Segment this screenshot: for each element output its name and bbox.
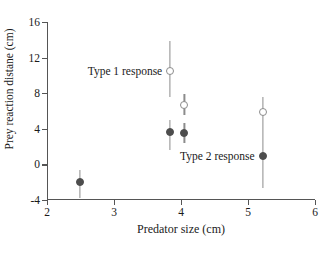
x-tick-label: 2 [44,206,50,218]
chart-annotation: Type 1 response [88,65,163,77]
data-point-type-2 [76,178,84,186]
y-tick-label: 0 [34,158,40,170]
x-tick-mark [181,200,182,205]
data-point-type-2 [166,128,174,136]
x-tick-mark [47,200,48,205]
y-tick-label: 12 [29,52,41,64]
x-tick-mark [248,200,249,205]
y-tick-mark [42,164,47,165]
y-tick-label: 4 [34,123,40,135]
data-point-type-2 [259,152,267,160]
y-tick-mark [42,93,47,94]
data-point-type-1 [259,108,267,116]
x-tick-label: 4 [178,206,184,218]
y-tick-mark [42,22,47,23]
y-axis-line [47,22,48,200]
y-tick-label: 16 [29,16,41,28]
data-point-type-1 [180,101,188,109]
y-tick-mark [42,58,47,59]
x-tick-mark [315,200,316,205]
data-point-type-1 [166,67,174,75]
y-axis-title-wrap: Prey reaction distane (cm) [11,0,12,178]
data-point-type-2 [180,129,188,137]
x-tick-label: 6 [312,206,318,218]
y-tick-mark [42,129,47,130]
x-tick-mark [114,200,115,205]
y-tick-label: -4 [30,194,40,206]
chart-annotation: Type 2 response [180,150,255,162]
y-axis-title: Prey reaction distane (cm) [3,28,15,149]
y-tick-label: 8 [34,87,40,99]
figure: 1612840-4 23456 Type 1 responseType 2 re… [0,0,335,255]
x-tick-label: 5 [245,206,251,218]
x-axis-title: Predator size (cm) [137,222,225,237]
x-tick-label: 3 [111,206,117,218]
plot-area: 1612840-4 23456 Type 1 responseType 2 re… [47,22,315,200]
